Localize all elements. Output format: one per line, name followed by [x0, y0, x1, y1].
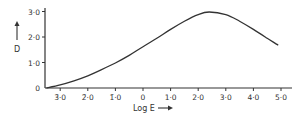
x-tick-label: 5·0	[275, 93, 287, 102]
x-tick-label: 3̄·0	[54, 93, 66, 102]
x-axis-title: Log E	[133, 104, 155, 113]
y-axis-title-group: D	[14, 21, 20, 54]
chart-canvas: 01·02·03·0 3̄·02̄·01̄·001·02·03·04·05·0 …	[0, 0, 300, 122]
x-tick-label: 4·0	[247, 93, 259, 102]
y-ticks: 01·02·03·0	[28, 8, 45, 94]
x-tick-label: 2·0	[192, 93, 204, 102]
x-tick-label: 1̄·0	[109, 93, 121, 102]
x-axis-title-group: Log E	[133, 104, 173, 113]
y-tick-label: 2·0	[28, 33, 40, 42]
y-tick-label: 1·0	[28, 59, 40, 68]
data-curve	[46, 12, 278, 88]
y-axis-title: D	[14, 45, 20, 54]
y-tick-label: 3·0	[28, 8, 40, 17]
x-tick-label: 2̄·0	[82, 93, 94, 102]
x-tick-label: 1·0	[165, 93, 177, 102]
x-tick-label: 3·0	[220, 93, 232, 102]
x-ticks: 3̄·02̄·01̄·001·02·03·04·05·0	[54, 88, 287, 102]
x-tick-label: 0	[141, 93, 146, 102]
up-arrowhead-icon	[15, 21, 20, 26]
y-tick-label: 0	[35, 84, 40, 93]
right-arrowhead-icon	[168, 106, 173, 111]
